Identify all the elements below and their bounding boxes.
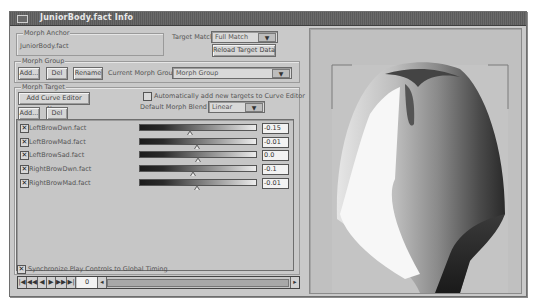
target-weight-input[interactable]: -0.01 xyxy=(262,137,289,148)
target-enabled-checkbox[interactable]: ✕ xyxy=(20,124,29,133)
target-weight-slider[interactable] xyxy=(139,165,257,172)
scroll-right-icon[interactable]: ▸ xyxy=(290,277,299,288)
target-name: LeftBrowDwn.fact xyxy=(29,124,86,132)
auto-add-targets-label: Automatically add new targets to Curve E… xyxy=(154,92,305,100)
morph-target-list[interactable]: ✕ LeftBrowDwn.fact -0.15 ✕ LeftBrowMad.f… xyxy=(16,119,294,271)
target-name: RightBrowMad.fact xyxy=(29,179,91,187)
target-weight-input[interactable]: 0.0 xyxy=(262,150,289,161)
scroll-left-icon[interactable]: ◂ xyxy=(98,277,107,288)
target-enabled-checkbox[interactable]: ✕ xyxy=(20,179,29,188)
target-row: ✕ RightBrowDwn.fact -0.1 xyxy=(17,163,291,176)
target-enabled-checkbox[interactable]: ✕ xyxy=(20,165,29,174)
timeline-scrollbar[interactable] xyxy=(107,279,289,287)
sync-play-controls-label: Synchronize Play Controls to Global Timi… xyxy=(28,265,168,273)
play-reverse-icon[interactable]: ◀ xyxy=(38,277,47,288)
go-to-end-icon[interactable]: ▶| xyxy=(67,277,76,288)
chevron-down-icon: ▼ xyxy=(258,33,276,42)
target-weight-slider[interactable] xyxy=(139,124,257,131)
morph-group-rename-button[interactable]: Rename xyxy=(73,67,103,80)
target-enabled-checkbox[interactable]: ✕ xyxy=(20,138,29,147)
sync-play-controls-checkbox[interactable]: ✕ xyxy=(17,265,26,274)
go-to-start-icon[interactable]: |◀ xyxy=(18,277,27,288)
target-name: LeftBrowSad.fact xyxy=(29,151,84,159)
target-weight-input[interactable]: -0.15 xyxy=(262,123,289,134)
default-morph-blend-dropdown[interactable]: Linear ▼ xyxy=(208,101,265,113)
playback-controls: |◀ ◀◀ ◀ ▶ ▶▶ ▶| 0 ◂ ▸ xyxy=(17,276,300,289)
morph-group-add-button[interactable]: Add... xyxy=(18,67,40,80)
current-morph-group-value: Morph Group xyxy=(176,69,218,77)
morph-group-del-button[interactable]: Del xyxy=(46,67,68,80)
morph-anchor-value: JuniorBody.fact xyxy=(20,42,69,50)
default-morph-blend-label: Default Morph Blend To xyxy=(140,103,216,111)
target-row: ✕ LeftBrowDwn.fact -0.15 xyxy=(17,122,291,135)
auto-add-targets-checkbox[interactable] xyxy=(143,92,152,101)
step-back-icon[interactable]: ◀◀ xyxy=(27,277,38,288)
window-title: JuniorBody.fact Info xyxy=(40,13,133,22)
target-row: ✕ LeftBrowMad.fact -0.01 xyxy=(17,136,291,149)
target-name: RightBrowDwn.fact xyxy=(29,165,91,173)
slider-thumb-icon[interactable] xyxy=(195,157,201,162)
current-morph-group-dropdown[interactable]: Morph Group ▼ xyxy=(172,67,292,79)
add-curve-editor-now-button[interactable]: Add Curve Editor Now xyxy=(18,92,90,105)
morph-group-label: Morph Group xyxy=(21,57,65,65)
current-morph-group-label: Current Morph Group: xyxy=(108,69,179,77)
default-morph-blend-value: Linear xyxy=(212,103,232,111)
morph-info-window: JuniorBody.fact Info Morph Anchor Junior… xyxy=(9,11,527,297)
morph-anchor-group: Morph Anchor JuniorBody.fact xyxy=(16,33,164,56)
morph-model-preview xyxy=(310,29,521,293)
chevron-down-icon: ▼ xyxy=(245,103,263,112)
target-row: ✕ LeftBrowSad.fact 0.0 xyxy=(17,149,291,162)
current-frame-input[interactable]: 0 xyxy=(77,277,98,288)
close-box-icon[interactable] xyxy=(17,15,28,23)
chevron-down-icon: ▼ xyxy=(272,69,290,78)
play-icon[interactable]: ▶ xyxy=(47,277,56,288)
slider-thumb-icon[interactable] xyxy=(187,130,193,135)
target-match-value: Full Match xyxy=(215,33,248,41)
model-preview-viewport[interactable] xyxy=(309,28,522,294)
title-bar[interactable]: JuniorBody.fact Info xyxy=(10,12,526,26)
target-row: ✕ RightBrowMad.fact -0.01 xyxy=(17,177,291,190)
slider-thumb-icon[interactable] xyxy=(194,185,200,190)
target-weight-input[interactable]: -0.01 xyxy=(262,178,289,189)
target-match-dropdown[interactable]: Full Match ▼ xyxy=(211,31,278,43)
target-match-label: Target Match: xyxy=(172,33,216,41)
morph-anchor-label: Morph Anchor xyxy=(23,29,70,37)
step-forward-icon[interactable]: ▶▶ xyxy=(56,277,67,288)
target-name: LeftBrowMad.fact xyxy=(29,138,86,146)
target-weight-input[interactable]: -0.1 xyxy=(262,164,289,175)
morph-target-label: Morph Target xyxy=(21,83,66,91)
slider-thumb-icon[interactable] xyxy=(190,171,196,176)
reload-target-data-button[interactable]: Reload Target Data xyxy=(212,44,276,57)
target-enabled-checkbox[interactable]: ✕ xyxy=(20,151,29,160)
